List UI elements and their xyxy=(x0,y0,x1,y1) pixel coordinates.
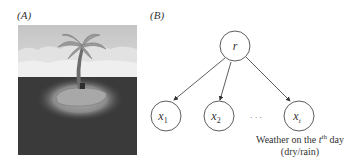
node-r-label: r xyxy=(233,39,238,53)
edge-r-xt xyxy=(246,57,290,101)
ellipsis: · · · xyxy=(250,113,262,122)
caption-line-1: Weather on the tth day xyxy=(245,133,355,145)
edge-r-x2 xyxy=(220,62,231,100)
node-xt xyxy=(284,101,314,131)
caption-line-2: (dry/rain) xyxy=(245,146,355,157)
edge-r-x1 xyxy=(174,58,225,100)
